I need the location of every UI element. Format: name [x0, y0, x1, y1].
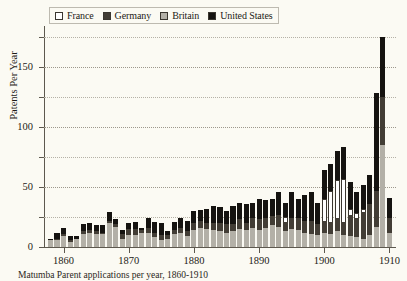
bar-segment-gb: [172, 234, 177, 247]
bar-segment-us: [309, 192, 314, 221]
x-axis-line: [44, 247, 396, 248]
bar-segment-fr: [341, 179, 346, 222]
bar-1892: [270, 199, 275, 247]
bar-segment-gb: [387, 233, 392, 247]
bar-segment-gb: [270, 225, 275, 247]
bar-segment-gb: [165, 239, 170, 247]
bar-segment-us: [152, 222, 157, 233]
bar-1860: [61, 228, 66, 247]
bar-segment-us: [185, 221, 190, 232]
bar-segment-gb: [224, 233, 229, 247]
bar-segment-de: [250, 218, 255, 228]
bar-segment-us: [302, 195, 307, 220]
bar-1881: [198, 210, 203, 247]
bar-segment-gb: [87, 233, 92, 247]
bar-segment-us: [387, 198, 392, 218]
bar-segment-de: [191, 223, 196, 230]
bar-1886: [230, 206, 235, 247]
bar-segment-us: [217, 207, 222, 223]
bar-segment-de: [354, 218, 359, 237]
gridline-y-175: [44, 37, 396, 39]
bar-1868: [113, 219, 118, 247]
y-tick-label-100: 100: [5, 122, 33, 132]
bar-segment-gb: [244, 230, 249, 247]
bar-segment-gb: [348, 236, 353, 247]
bar-segment-de: [322, 221, 327, 233]
bar-segment-us: [335, 151, 340, 180]
legend-swatch-icon: [55, 12, 63, 20]
bar-segment-de: [315, 224, 320, 235]
bar-1896: [296, 199, 301, 247]
bar-segment-de: [263, 218, 268, 228]
bar-1894: [283, 203, 288, 247]
bar-segment-us: [244, 204, 249, 223]
bar-segment-us: [107, 212, 112, 220]
x-tick-label-1910: 1910: [369, 255, 407, 266]
bar-1909: [380, 37, 385, 247]
y-tick-mark: [39, 247, 44, 248]
bar-segment-de: [198, 221, 203, 228]
bar-1875: [159, 223, 164, 247]
bar-1897: [302, 195, 307, 247]
bar-segment-gb: [126, 235, 131, 247]
bar-segment-gb: [152, 237, 157, 247]
bar-segment-gb: [217, 231, 222, 247]
bar-1879: [185, 221, 190, 247]
bar-segment-gb: [367, 235, 372, 247]
bar-segment-de: [341, 222, 346, 235]
bar-1907: [367, 175, 372, 247]
bar-segment-gb: [54, 240, 59, 247]
y-tick-mark: [39, 157, 44, 158]
bar-segment-de: [270, 216, 275, 226]
x-tick-label-1900: 1900: [304, 255, 344, 266]
bar-segment-us: [380, 37, 385, 97]
x-tick-mark: [259, 248, 260, 253]
bar-segment-gb: [289, 229, 294, 247]
plot-area: [44, 31, 396, 247]
bar-segment-fr: [322, 199, 327, 221]
bar-segment-de: [309, 221, 314, 234]
gridline-y-125: [44, 97, 396, 99]
bar-1876: [165, 231, 170, 247]
bar-segment-us: [257, 199, 262, 219]
bar-1908: [374, 93, 379, 247]
gridline-y-150: [44, 67, 396, 69]
x-tick-label-1870: 1870: [109, 255, 149, 266]
bar-segment-gb: [146, 233, 151, 247]
bar-1891: [263, 200, 268, 247]
bar-segment-us: [361, 185, 366, 209]
x-tick-label-1860: 1860: [44, 255, 84, 266]
bar-1900: [322, 170, 327, 247]
bar-segment-de: [296, 218, 301, 230]
bar-segment-gb: [257, 230, 262, 247]
bar-1859: [54, 233, 59, 247]
bar-1872: [139, 228, 144, 247]
bar-segment-de: [283, 222, 288, 232]
bar-segment-gb: [211, 230, 216, 247]
bar-1869: [120, 230, 125, 247]
bar-1885: [224, 211, 229, 247]
bar-1866: [100, 225, 105, 247]
bar-1883: [211, 206, 216, 247]
bar-1874: [152, 222, 157, 247]
bar-segment-gb: [120, 239, 125, 247]
legend-swatch-icon: [208, 12, 216, 20]
bar-segment-us: [159, 223, 164, 235]
bar-segment-gb: [315, 235, 320, 247]
bar-1858: [48, 239, 53, 247]
bar-1871: [133, 222, 138, 247]
legend-label: Germany: [115, 11, 152, 21]
bar-segment-gb: [361, 239, 366, 247]
bar-segment-gb: [159, 240, 164, 247]
bar-segment-de: [335, 218, 340, 231]
x-tick-mark: [389, 248, 390, 253]
bar-segment-us: [348, 182, 353, 208]
bar-segment-gb: [309, 234, 314, 247]
y-tick-mark: [39, 97, 44, 98]
bar-segment-us: [100, 225, 105, 232]
bar-segment-gb: [283, 231, 288, 247]
bar-1863: [81, 224, 86, 247]
legend-swatch-icon: [160, 12, 168, 20]
bar-1877: [172, 222, 177, 247]
bar-segment-us: [172, 222, 177, 230]
